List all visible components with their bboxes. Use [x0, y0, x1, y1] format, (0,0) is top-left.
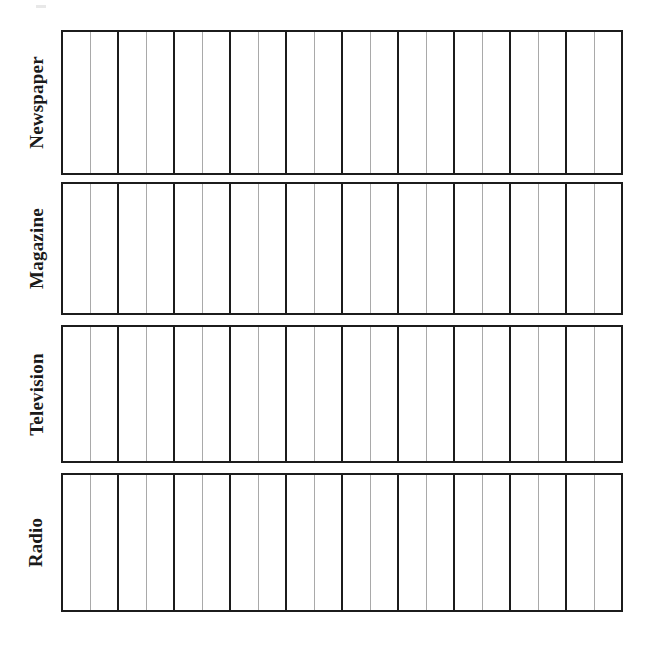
tally-cell[interactable] [147, 32, 174, 173]
tally-cell[interactable] [175, 32, 203, 173]
tally-cell[interactable] [315, 32, 342, 173]
tally-cell[interactable] [539, 32, 566, 173]
tally-cell[interactable] [399, 327, 427, 461]
tally-cell[interactable] [483, 184, 510, 313]
tally-cell[interactable] [427, 184, 454, 313]
tally-cell[interactable] [427, 32, 454, 173]
tally-block [399, 32, 455, 173]
tally-cell[interactable] [287, 475, 315, 610]
tally-cell[interactable] [147, 475, 174, 610]
tally-cell[interactable] [119, 32, 147, 173]
tally-cell[interactable] [539, 327, 566, 461]
tally-cell[interactable] [483, 327, 510, 461]
tally-cell[interactable] [371, 32, 398, 173]
tally-cell[interactable] [119, 475, 147, 610]
tally-cell[interactable] [343, 327, 371, 461]
tally-cell[interactable] [231, 327, 259, 461]
tally-cell[interactable] [63, 184, 91, 313]
tally-cell[interactable] [287, 184, 315, 313]
tally-cell[interactable] [175, 184, 203, 313]
tally-cell[interactable] [259, 32, 286, 173]
tally-cell[interactable] [539, 475, 566, 610]
tally-cell[interactable] [315, 184, 342, 313]
tally-row-radio: Radio [0, 473, 657, 612]
tally-grid-magazine [61, 182, 623, 315]
tally-cell[interactable] [595, 184, 622, 313]
tally-cell[interactable] [147, 184, 174, 313]
tally-cell[interactable] [91, 32, 118, 173]
tally-cell[interactable] [427, 475, 454, 610]
tally-cell[interactable] [63, 327, 91, 461]
tally-cell[interactable] [91, 475, 118, 610]
tally-cell[interactable] [343, 184, 371, 313]
tally-cell[interactable] [203, 184, 230, 313]
tally-cell[interactable] [567, 327, 595, 461]
tally-cell[interactable] [315, 327, 342, 461]
tally-cell[interactable] [119, 327, 147, 461]
tally-cell[interactable] [399, 475, 427, 610]
tally-cell[interactable] [203, 327, 230, 461]
tally-cell[interactable] [483, 32, 510, 173]
tally-cell[interactable] [455, 184, 483, 313]
row-label-box-radio: Radio [14, 473, 58, 612]
tally-block [119, 475, 175, 610]
tally-cell[interactable] [455, 327, 483, 461]
tally-block [287, 32, 343, 173]
tally-cell[interactable] [147, 327, 174, 461]
tally-cell[interactable] [231, 184, 259, 313]
tally-cell[interactable] [343, 32, 371, 173]
tally-cell[interactable] [567, 475, 595, 610]
tally-cell[interactable] [63, 32, 91, 173]
tally-cell[interactable] [595, 475, 622, 610]
tally-cell[interactable] [511, 184, 539, 313]
tally-cell[interactable] [259, 327, 286, 461]
tally-block [399, 327, 455, 461]
tally-cell[interactable] [595, 327, 622, 461]
tally-block [175, 475, 231, 610]
tally-cell[interactable] [567, 184, 595, 313]
row-label-box-newspaper: Newspaper [14, 30, 58, 175]
tally-cell[interactable] [259, 184, 286, 313]
tally-cell[interactable] [343, 475, 371, 610]
tally-block [343, 184, 399, 313]
tally-cell[interactable] [175, 475, 203, 610]
tally-block [287, 184, 343, 313]
tally-cell[interactable] [399, 184, 427, 313]
tally-cell[interactable] [259, 475, 286, 610]
tally-cell[interactable] [371, 327, 398, 461]
tally-cell[interactable] [371, 184, 398, 313]
tally-cell[interactable] [399, 32, 427, 173]
tally-cell[interactable] [91, 184, 118, 313]
tally-cell[interactable] [231, 32, 259, 173]
tally-cell[interactable] [119, 184, 147, 313]
tally-cell[interactable] [315, 475, 342, 610]
tally-block [511, 327, 567, 461]
tally-cell[interactable] [595, 32, 622, 173]
tally-cell[interactable] [63, 475, 91, 610]
tally-cell[interactable] [511, 475, 539, 610]
tally-block [175, 184, 231, 313]
tally-cell[interactable] [511, 32, 539, 173]
tally-block [343, 32, 399, 173]
tally-grid-radio [61, 473, 623, 612]
tally-cell[interactable] [455, 475, 483, 610]
tally-cell[interactable] [175, 327, 203, 461]
tally-block [455, 327, 511, 461]
tally-grid-newspaper [61, 30, 623, 175]
tally-cell[interactable] [511, 327, 539, 461]
tally-cell[interactable] [287, 32, 315, 173]
tally-cell[interactable] [203, 32, 230, 173]
tally-cell[interactable] [231, 475, 259, 610]
tally-cell[interactable] [539, 184, 566, 313]
tally-cell[interactable] [427, 327, 454, 461]
tally-cell[interactable] [567, 32, 595, 173]
tally-block [511, 475, 567, 610]
tally-cell[interactable] [287, 327, 315, 461]
tally-block [119, 327, 175, 461]
tally-block [287, 475, 343, 610]
tally-cell[interactable] [455, 32, 483, 173]
tally-cell[interactable] [91, 327, 118, 461]
tally-cell[interactable] [371, 475, 398, 610]
tally-cell[interactable] [483, 475, 510, 610]
tally-cell[interactable] [203, 475, 230, 610]
